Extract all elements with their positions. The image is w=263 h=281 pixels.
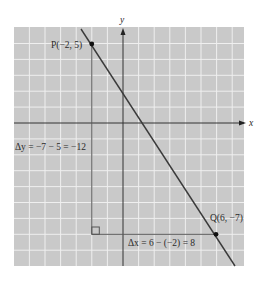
y-axis-label: y [119,15,125,25]
delta-y-annotation: Δy = −7 − 5 = −12 [15,142,86,152]
point-Q-label: Q(6, −7) [210,213,243,224]
coordinate-plane: x y P(−2, 5) Q(6, −7) Δy = −7 − 5 = −12 … [0,0,263,281]
delta-x-annotation: Δx = 6 − (−2) = 8 [128,238,195,249]
point-Q [214,232,219,237]
point-P-label: P(−2, 5) [51,40,82,51]
x-axis-label: x [248,118,254,128]
point-P [89,42,94,47]
